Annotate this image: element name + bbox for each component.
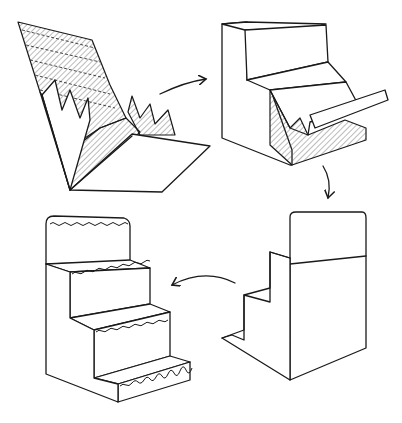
step-1-flat-sheet xyxy=(18,22,210,192)
diagram-svg xyxy=(0,0,402,423)
arrow-down-icon xyxy=(323,166,329,198)
step-3-box-back xyxy=(222,212,366,380)
arrow-right-icon xyxy=(160,79,206,94)
step-2-partial-fold xyxy=(222,22,388,165)
folding-diagram xyxy=(0,0,402,423)
arrow-left-icon xyxy=(172,276,235,285)
step-4-finished-stand xyxy=(46,216,192,402)
